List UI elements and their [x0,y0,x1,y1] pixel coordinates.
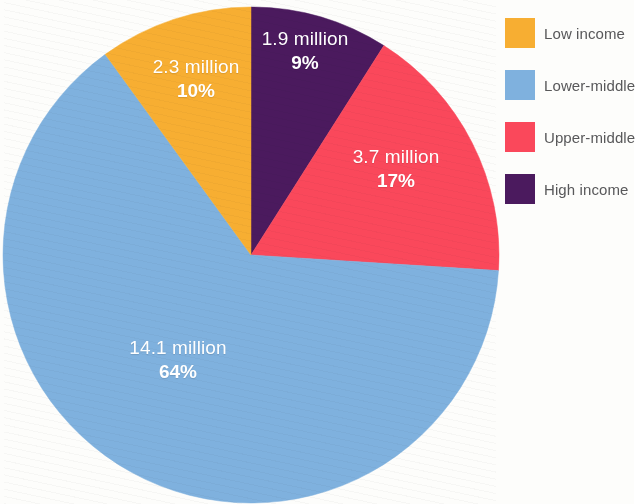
legend-label-lower-middle: Lower-middle [544,77,635,94]
legend-item-upper-middle[interactable]: Upper-middle [505,111,634,163]
pie-slice-group [3,7,499,503]
legend-item-high-income[interactable]: High income [505,163,634,215]
chart-legend: Low income Lower-middle Upper-middle Hig… [505,7,634,215]
legend-swatch-high-income [505,174,535,204]
pie-chart-plot-area [0,0,505,504]
legend-swatch-upper-middle [505,122,535,152]
legend-item-low-income[interactable]: Low income [505,7,634,59]
legend-swatch-lower-middle [505,70,535,100]
legend-label-upper-middle: Upper-middle [544,129,635,146]
legend-item-lower-middle[interactable]: Lower-middle [505,59,634,111]
legend-label-high-income: High income [544,181,628,198]
pie-chart-svg [0,0,505,504]
legend-swatch-low-income [505,18,535,48]
legend-label-low-income: Low income [544,25,625,42]
